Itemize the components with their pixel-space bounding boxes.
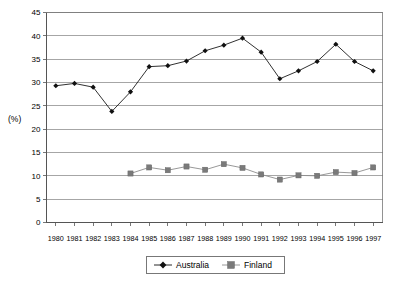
- x-tick-label: 1996: [347, 234, 363, 243]
- x-tick-label: 1993: [291, 234, 307, 243]
- x-tick-label: 1985: [141, 234, 157, 243]
- data-point-australia: [371, 68, 376, 73]
- y-tick-label: 25: [32, 102, 41, 111]
- data-point-finland: [352, 170, 357, 175]
- data-point-finland: [333, 170, 338, 175]
- x-tick-label: 1992: [272, 234, 288, 243]
- x-tick-label: 1991: [253, 234, 269, 243]
- x-tick-label: 1989: [216, 234, 232, 243]
- data-point-finland: [184, 164, 189, 169]
- plot-area-border: [47, 13, 383, 223]
- y-axis-title: (%): [8, 114, 21, 124]
- x-tick-label: 1988: [197, 234, 213, 243]
- y-tick-label: 40: [32, 32, 41, 41]
- x-tick-label: 1981: [67, 234, 83, 243]
- y-tick-label: 5: [36, 195, 41, 204]
- x-tick-label: 1984: [123, 234, 139, 243]
- data-point-finland: [296, 173, 301, 178]
- data-point-finland: [128, 171, 133, 176]
- x-tick-label: 1980: [48, 234, 64, 243]
- y-axis-tick-labels: 051015202530354045: [32, 8, 41, 227]
- x-tick-label: 1986: [160, 234, 176, 243]
- x-axis-tick-labels: 1980198119821983198419851986198719881989…: [48, 234, 381, 243]
- x-tick-label: 1994: [309, 234, 325, 243]
- x-tick-label: 1995: [328, 234, 344, 243]
- y-tick-label: 15: [32, 148, 41, 157]
- series-markers-australia: [53, 36, 376, 114]
- y-tick-label: 0: [36, 218, 41, 227]
- data-point-finland: [147, 165, 152, 170]
- legend-marker-finland-icon: [228, 262, 235, 269]
- data-point-finland: [203, 167, 208, 172]
- data-point-finland: [277, 177, 282, 182]
- data-point-australia: [72, 81, 77, 86]
- chart-legend: Australia Finland: [147, 257, 285, 274]
- data-point-finland: [165, 168, 170, 173]
- y-tick-label: 30: [32, 78, 41, 87]
- line-chart: 051015202530354045 198019811982198319841…: [0, 0, 393, 282]
- legend-label-finland: Finland: [244, 260, 272, 270]
- data-point-finland: [240, 165, 245, 170]
- data-point-australia: [296, 68, 301, 73]
- gridlines: [47, 13, 383, 200]
- x-tick-label: 1982: [85, 234, 101, 243]
- data-point-finland: [371, 165, 376, 170]
- chart-container: 051015202530354045 198019811982198319841…: [0, 0, 393, 282]
- data-point-finland: [315, 173, 320, 178]
- y-axis-tick-marks: [43, 13, 47, 223]
- x-tick-label: 1997: [365, 234, 381, 243]
- data-point-australia: [165, 63, 170, 68]
- y-tick-label: 10: [32, 172, 41, 181]
- y-tick-label: 35: [32, 55, 41, 64]
- y-tick-label: 45: [32, 8, 41, 17]
- x-tick-label: 1983: [104, 234, 120, 243]
- data-point-finland: [221, 162, 226, 167]
- data-point-finland: [259, 172, 264, 177]
- x-tick-label: 1990: [235, 234, 251, 243]
- series-markers-finland: [128, 162, 376, 183]
- data-point-australia: [221, 43, 226, 48]
- series-line-australia: [56, 38, 373, 111]
- data-point-australia: [53, 83, 58, 88]
- legend-label-australia: Australia: [176, 260, 209, 270]
- y-tick-label: 20: [32, 125, 41, 134]
- data-point-australia: [203, 48, 208, 53]
- x-tick-label: 1987: [179, 234, 195, 243]
